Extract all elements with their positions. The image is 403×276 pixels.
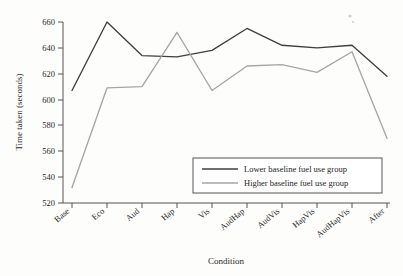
y-tick-560: 560 — [42, 146, 63, 156]
x-axis-category-labels: Base Eco Aud Hap Vis AudHap AudVis HapVi… — [52, 205, 386, 239]
x-category-label: After — [366, 206, 386, 225]
x-category-label: AudHap — [218, 206, 246, 232]
legend-label-higher-baseline: Higher baseline fuel use group — [244, 178, 348, 188]
decorative-speck — [348, 14, 354, 23]
y-tick-580: 580 — [42, 120, 63, 130]
y-tick-660: 660 — [42, 17, 63, 27]
y-axis-title: Time taken (seconds) — [14, 73, 24, 150]
x-axis-title: Condition — [208, 256, 245, 266]
chart-legend[interactable]: Lower baseline fuel use group Higher bas… — [193, 158, 382, 193]
x-axis-ticks — [72, 203, 387, 208]
y-tick-label: 640 — [42, 43, 55, 53]
x-category-label: Eco — [90, 206, 107, 222]
y-tick-640: 640 — [42, 43, 63, 53]
y-tick-label: 620 — [42, 69, 55, 79]
line-chart-svg: 660 640 620 600 580 560 — [0, 0, 403, 276]
x-category-label: AudVis — [255, 206, 281, 230]
y-tick-label: 560 — [42, 146, 55, 156]
y-axis-ticks: 660 640 620 600 580 560 — [42, 17, 63, 208]
series-line-lower-baseline — [72, 22, 387, 91]
x-category-label: Base — [52, 206, 71, 224]
x-category-label: Vis — [196, 206, 211, 221]
y-tick-620: 620 — [42, 69, 63, 79]
y-tick-label: 660 — [42, 17, 55, 27]
x-category-label: HapVis — [290, 206, 316, 230]
chart-figure: 660 640 620 600 580 560 — [0, 0, 403, 276]
y-tick-540: 540 — [42, 172, 63, 182]
y-tick-label: 540 — [42, 172, 55, 182]
x-category-label: AudHapVis — [314, 206, 351, 239]
y-tick-520: 520 — [42, 198, 63, 208]
x-category-label: Aud — [124, 205, 142, 223]
x-category-label: Hap — [159, 206, 176, 223]
legend-label-lower-baseline: Lower baseline fuel use group — [244, 164, 347, 174]
y-tick-label: 600 — [42, 95, 55, 105]
y-tick-label: 580 — [42, 120, 55, 130]
y-tick-600: 600 — [42, 95, 63, 105]
y-tick-label: 520 — [42, 198, 55, 208]
